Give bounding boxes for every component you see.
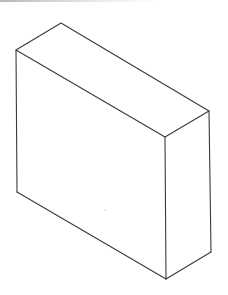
box-front-face — [16, 50, 166, 279]
box-side-face — [166, 111, 211, 279]
front-left-edge — [16, 50, 17, 192]
stray-dot — [104, 209, 106, 211]
side-bottom-edge — [166, 252, 211, 279]
side-right-edge — [209, 111, 211, 252]
box-top-face — [16, 23, 209, 137]
front-right-edge — [165, 137, 166, 279]
top-face-outline — [16, 23, 209, 137]
front-bottom-edge — [17, 192, 166, 279]
isometric-box-diagram — [0, 0, 228, 295]
